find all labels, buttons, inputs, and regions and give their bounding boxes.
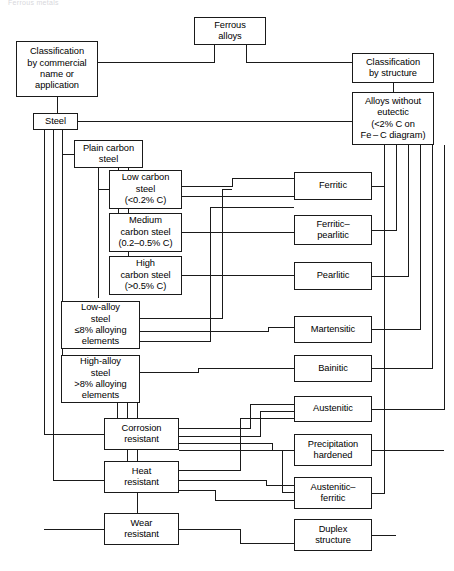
node-classification-by-structure: Classificationby structure — [352, 53, 434, 83]
node-low-carbon-steel: Low carbonsteel(<0.2% C) — [109, 170, 182, 209]
node-precipitation-hardened: Precipitationhardened — [294, 434, 372, 466]
node-wear-resistant: Wearresistant — [104, 513, 179, 545]
node-steel: Steel — [33, 113, 78, 130]
node-ferritic: Ferritic — [294, 172, 372, 200]
node-classification-by-commercial-name: Classificationby commercialname orapplic… — [16, 41, 98, 97]
node-ferritic-pearlitic: Ferritic–pearlitic — [294, 215, 372, 245]
node-martensitic: Martensitic — [294, 316, 372, 343]
node-corrosion-resistant: Corrosionresistant — [104, 418, 179, 450]
node-high-carbon-steel: Highcarbon steel(>0.5% C) — [109, 256, 182, 295]
node-plain-carbon-steel: Plain carbonsteel — [74, 140, 143, 168]
node-pearlitic: Pearlitic — [294, 262, 372, 290]
node-austenitic-ferritic: Austenitic–ferritic — [294, 477, 372, 509]
node-duplex-structure: Duplexstructure — [294, 519, 372, 551]
node-ferrous-alloys: Ferrousalloys — [194, 17, 266, 45]
node-austenitic: Austenitic — [294, 396, 372, 422]
node-heat-resistant: Heatresistant — [104, 461, 179, 493]
node-high-alloy-steel: High-alloysteel>8% alloyingelements — [61, 355, 140, 403]
diagram-canvas: Ferrous metals Ferrousalloys Classificat… — [0, 0, 454, 571]
node-bainitic: Bainitic — [294, 355, 372, 382]
node-medium-carbon-steel: Mediumcarbon steel(0.2–0.5% C) — [109, 213, 182, 252]
node-alloys-without-eutectic: Alloys withouteutectic(<2% C onFe – C di… — [352, 92, 434, 145]
node-low-alloy-steel: Low-alloysteel≤8% alloyingelements — [61, 301, 140, 349]
